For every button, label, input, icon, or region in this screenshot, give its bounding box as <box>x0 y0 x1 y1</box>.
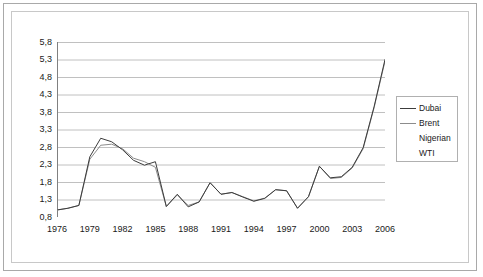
x-axis-tick-label: 1997 <box>277 225 297 234</box>
x-axis-tick-label: 1979 <box>80 225 100 234</box>
x-axis-tick-label: 1976 <box>47 225 67 234</box>
legend-line-swatch <box>400 104 416 113</box>
x-axis-tick-label: 2006 <box>375 225 395 234</box>
legend-entry-wti: WTI <box>397 146 457 161</box>
chart-legend: DubaiBrentNigerianWTI <box>396 96 458 162</box>
legend-entry-label: WTI <box>419 149 435 158</box>
legend-entry-label: Dubai <box>419 104 441 113</box>
legend-line-swatch <box>400 149 416 158</box>
plot-svg <box>57 42 385 217</box>
legend-line-swatch <box>400 119 416 128</box>
series-line-nigerian <box>57 60 385 210</box>
x-axis-tick-label: 1991 <box>211 225 231 234</box>
x-axis-tick-label: 1985 <box>145 225 165 234</box>
legend-entry-brent: Brent <box>397 116 457 131</box>
chart-figure: 0,81,31,82,32,83,33,84,34,85,35,8 197619… <box>0 0 483 277</box>
legend-entry-dubai: Dubai <box>397 101 457 116</box>
legend-line-swatch <box>400 134 416 143</box>
series-line-dubai <box>57 60 385 211</box>
series-line-wti <box>57 60 385 210</box>
x-axis-tick-label: 1982 <box>113 225 133 234</box>
legend-entry-nigerian: Nigerian <box>397 131 457 146</box>
x-axis-tick-label: 1988 <box>178 225 198 234</box>
x-axis-tick-label: 2000 <box>309 225 329 234</box>
series-line-brent <box>57 61 385 210</box>
legend-entry-label: Nigerian <box>419 134 451 143</box>
x-axis-tick-label: 2003 <box>342 225 362 234</box>
x-axis-tick-label: 1994 <box>244 225 264 234</box>
plot-area <box>57 42 385 217</box>
legend-entry-label: Brent <box>419 119 439 128</box>
